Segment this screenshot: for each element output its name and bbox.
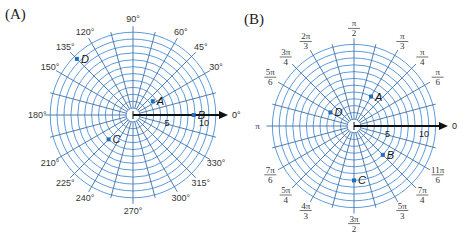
angle-label: 90° — [126, 14, 140, 24]
angle-label-denominator: 4 — [283, 57, 288, 67]
angle-label-denominator: 4 — [420, 57, 425, 67]
point-label: C — [113, 133, 121, 145]
angle-label-denominator: 3 — [400, 41, 405, 51]
point-b — [192, 113, 196, 117]
angle-label: 135° — [56, 42, 75, 52]
angle-label-numerator: 7π — [418, 185, 428, 195]
angle-label: 300° — [172, 193, 191, 203]
angle-label-denominator: 6 — [435, 175, 440, 185]
angle-label-numerator: π — [400, 31, 405, 41]
angle-label: 315° — [191, 178, 210, 188]
angle-label-denominator: 6 — [435, 77, 440, 87]
point-c — [352, 178, 356, 182]
arrow-head-icon — [439, 122, 448, 130]
angle-label-numerator: 5π — [266, 67, 276, 77]
angle-label-numerator: π — [420, 47, 425, 57]
angle-label-denominator: 4 — [420, 195, 425, 205]
angle-label: 60° — [174, 27, 188, 37]
angle-label: 150° — [41, 62, 60, 72]
angle-label-denominator: 2 — [352, 28, 357, 38]
grid-spoke — [70, 120, 128, 178]
point-a — [151, 99, 155, 103]
point-b — [381, 153, 385, 157]
grid-spoke — [292, 131, 349, 188]
angle-label-denominator: 4 — [283, 195, 288, 205]
point-a — [369, 95, 373, 99]
angle-label: 240° — [76, 193, 95, 203]
angle-label-denominator: 3 — [303, 211, 308, 221]
point-label: C — [358, 174, 366, 186]
polar-grids: 0°51030°45°60°90°120°135°150°180°210°225… — [0, 0, 468, 249]
angle-label-numerator: π — [352, 18, 357, 28]
angle-label-numerator: 11π — [431, 165, 445, 175]
angle-label: π — [255, 121, 260, 131]
point-label: A — [374, 91, 382, 103]
point-label: D — [334, 106, 342, 118]
polar-axis-label: 0 — [452, 121, 457, 131]
point-d — [328, 110, 332, 114]
angle-label: 30° — [209, 62, 223, 72]
angle-label-denominator: 3 — [400, 211, 405, 221]
grid-spoke — [359, 64, 416, 121]
angle-label-numerator: 4π — [301, 201, 311, 211]
angle-label-denominator: 6 — [268, 77, 273, 87]
grid-spoke — [138, 52, 196, 110]
point-c — [107, 137, 111, 141]
radial-tick-label: 5 — [385, 129, 390, 139]
point-d — [75, 57, 79, 61]
polar-grid-a: 0°51030°45°60°90°120°135°150°180°210°225… — [28, 14, 241, 216]
radial-tick-label: 5 — [165, 118, 170, 128]
grid-spoke — [70, 52, 128, 110]
angle-label: 330° — [207, 158, 226, 168]
grid-spoke — [138, 120, 196, 178]
polar-grid-b: 0510π6π4π3π22π33π45π6π7π65π44π33π25π37π4… — [255, 18, 457, 233]
point-label: D — [81, 53, 89, 65]
angle-label: 45° — [194, 42, 208, 52]
radial-tick-label: 10 — [419, 129, 429, 139]
angle-label-numerator: 5π — [398, 201, 408, 211]
angle-label-numerator: 3π — [281, 47, 291, 57]
point-label: B — [387, 149, 394, 161]
angle-label: 120° — [76, 27, 95, 37]
angle-label-numerator: 5π — [281, 185, 291, 195]
angle-label: 225° — [56, 178, 75, 188]
angle-label-numerator: π — [435, 67, 440, 77]
point-label: B — [198, 109, 205, 121]
angle-label-numerator: 3π — [349, 214, 359, 224]
arrow-head-icon — [219, 111, 228, 119]
angle-label: 270° — [124, 206, 143, 216]
angle-label-numerator: 2π — [301, 31, 311, 41]
angle-label: 180° — [28, 110, 47, 120]
polar-axis-label: 0° — [232, 110, 241, 120]
point-label: A — [156, 95, 164, 107]
angle-label-denominator: 6 — [268, 175, 273, 185]
angle-label-denominator: 3 — [303, 41, 308, 51]
angle-label-denominator: 2 — [352, 224, 357, 234]
angle-label-numerator: 7π — [266, 165, 276, 175]
angle-label: 210° — [41, 158, 60, 168]
